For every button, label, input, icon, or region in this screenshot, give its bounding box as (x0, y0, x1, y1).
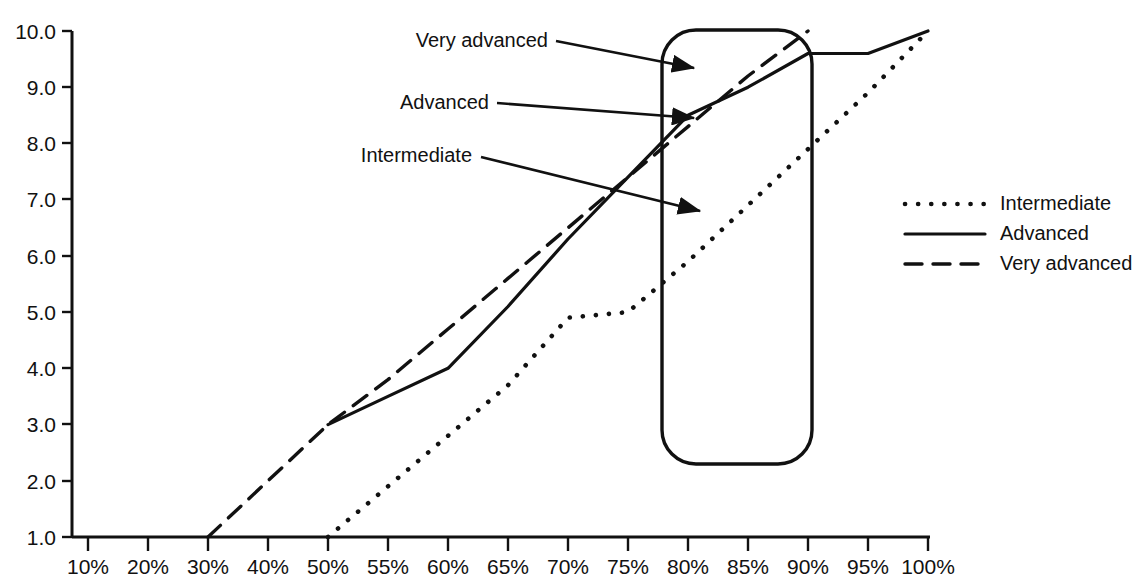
y-tick-label: 2.0 (27, 470, 56, 493)
x-tick-label: 10% (67, 555, 109, 578)
annotation-leader-line (556, 41, 694, 68)
legend-item-intermediate: Intermediate (905, 192, 1111, 214)
cropped-caption-text (120, 566, 820, 580)
annotation-label-intermediate: Intermediate (361, 144, 472, 166)
annotation-very-advanced: Very advanced (416, 29, 694, 68)
x-tick-label: 100% (901, 555, 955, 578)
y-tick-label: 10.0 (15, 20, 56, 43)
y-tick-label: 5.0 (27, 301, 56, 324)
y-tick-label: 8.0 (27, 132, 56, 155)
legend-label-intermediate: Intermediate (1000, 192, 1111, 214)
annotation-advanced: Advanced (400, 91, 694, 118)
legend-item-very-advanced: Very advanced (905, 252, 1132, 274)
y-tick-label: 3.0 (27, 413, 56, 436)
x-axis-ticks (88, 537, 928, 551)
annotation-leader-line (481, 157, 700, 211)
y-tick-label: 6.0 (27, 245, 56, 268)
annotation-label-very-advanced: Very advanced (416, 29, 548, 51)
y-tick-label: 7.0 (27, 188, 56, 211)
annotation-leader-line (497, 103, 694, 118)
y-axis-labels: 1.0 2.0 3.0 4.0 5.0 6.0 7.0 8.0 9.0 10.0 (15, 20, 56, 549)
legend-item-advanced: Advanced (905, 222, 1089, 244)
y-tick-label: 4.0 (27, 357, 56, 380)
chart-legend: Intermediate Advanced Very advanced (905, 192, 1132, 274)
line-chart: 1.0 2.0 3.0 4.0 5.0 6.0 7.0 8.0 9.0 10.0 (0, 0, 1140, 582)
series-line-very-advanced (208, 31, 808, 537)
highlight-region-box (662, 30, 812, 464)
chart-container: 1.0 2.0 3.0 4.0 5.0 6.0 7.0 8.0 9.0 10.0 (0, 0, 1140, 582)
y-tick-label: 9.0 (27, 76, 56, 99)
legend-label-very-advanced: Very advanced (1000, 252, 1132, 274)
annotation-label-advanced: Advanced (400, 91, 489, 113)
x-tick-label: 95% (847, 555, 889, 578)
y-tick-label: 1.0 (27, 526, 56, 549)
legend-label-advanced: Advanced (1000, 222, 1089, 244)
